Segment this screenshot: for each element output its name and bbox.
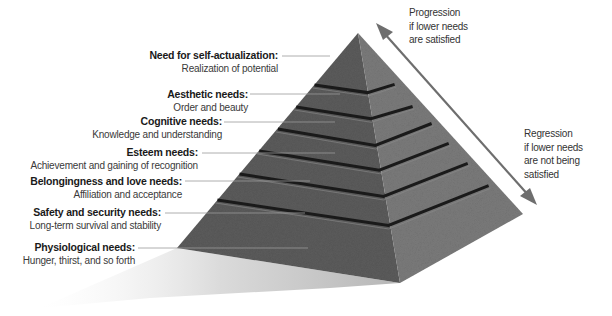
level-title: Belongingness and love needs: (30, 175, 182, 188)
progression-note: Progression if lower needs are satisfied (409, 6, 468, 47)
note-line: are satisfied (409, 33, 468, 47)
level-description: Affiliation and acceptance (30, 188, 182, 201)
level-title: Cognitive needs: (92, 115, 222, 128)
regression-note: Regression if lower needs are not being … (524, 127, 583, 181)
level-esteem: Esteem needs: Achievement and gaining of… (30, 146, 198, 172)
level-aesthetic: Aesthetic needs: Order and beauty (167, 88, 248, 114)
level-description: Hunger, thirst, and so forth (23, 254, 135, 267)
level-title: Need for self-actualization: (149, 49, 278, 62)
level-belongingness: Belongingness and love needs: Affiliatio… (30, 175, 182, 201)
level-safety: Safety and security needs: Long-term sur… (30, 206, 161, 232)
note-line: are not being (524, 154, 583, 168)
level-title: Aesthetic needs: (167, 88, 248, 101)
level-self-actualization: Need for self-actualization: Realization… (149, 49, 278, 75)
level-description: Achievement and gaining of recognition (30, 159, 198, 172)
level-title: Safety and security needs: (30, 206, 161, 219)
level-cognitive: Cognitive needs: Knowledge and understan… (92, 115, 222, 141)
note-line: Progression (409, 6, 468, 20)
note-line: if lower needs (524, 141, 583, 155)
level-physiological: Physiological needs: Hunger, thirst, and… (23, 241, 135, 267)
level-description: Knowledge and understanding (92, 128, 222, 141)
level-title: Esteem needs: (30, 146, 198, 159)
note-line: satisfied (524, 168, 583, 182)
note-line: Regression (524, 127, 583, 141)
level-title: Physiological needs: (23, 241, 135, 254)
hierarchy-of-needs-diagram: Need for self-actualization: Realization… (0, 0, 612, 316)
level-description: Realization of potential (149, 62, 278, 75)
note-line: if lower needs (409, 20, 468, 34)
level-description: Order and beauty (167, 101, 248, 114)
level-description: Long-term survival and stability (30, 219, 161, 232)
